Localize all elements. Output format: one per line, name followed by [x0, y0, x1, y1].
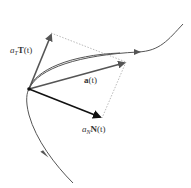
- tangential-vector: [29, 35, 51, 89]
- curve-arrow-icon: [134, 49, 141, 55]
- acceleration-vector: [29, 63, 124, 89]
- acceleration-diagram: aTT(t) a(t) aNN(t): [0, 0, 191, 188]
- acceleration-label: a(t): [84, 76, 97, 85]
- point-marker: [27, 87, 31, 91]
- normal-vector: [29, 89, 100, 117]
- trajectory-curve: [27, 24, 183, 183]
- label-arg: (t): [24, 45, 33, 55]
- normal-label: aNN(t): [82, 125, 106, 135]
- diagram-svg: [0, 0, 191, 188]
- label-arg: (t): [97, 124, 106, 134]
- tangential-label: aTT(t): [10, 46, 32, 56]
- inner-curve: [29, 53, 120, 89]
- label-arg: (t): [89, 75, 98, 85]
- curve-arrow-icon: [40, 150, 48, 159]
